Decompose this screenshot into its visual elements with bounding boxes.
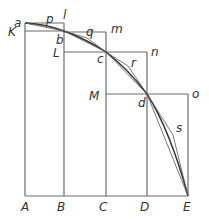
- label-L: L: [53, 46, 60, 60]
- label-E: E: [183, 200, 191, 214]
- label-M: M: [89, 89, 100, 103]
- label-l: l: [63, 8, 67, 22]
- label-m: m: [111, 22, 123, 36]
- labels: ABCDEaplKbqmLcnrMdos: [8, 8, 199, 214]
- label-p: p: [45, 12, 54, 26]
- label-q: q: [86, 25, 94, 39]
- label-C: C: [99, 200, 108, 214]
- label-s: s: [176, 121, 182, 135]
- label-o: o: [192, 87, 199, 101]
- rectangle-frames: [25, 23, 188, 196]
- label-A: A: [20, 200, 29, 214]
- label-b: b: [56, 33, 64, 47]
- label-c: c: [97, 52, 104, 66]
- geometry-figure: ABCDEaplKbqmLcnrMdos: [0, 0, 209, 219]
- label-n: n: [151, 45, 159, 59]
- label-D: D: [140, 200, 149, 214]
- label-B: B: [57, 200, 65, 214]
- label-r: r: [131, 56, 137, 70]
- label-K: K: [8, 25, 17, 39]
- label-d: d: [138, 96, 146, 110]
